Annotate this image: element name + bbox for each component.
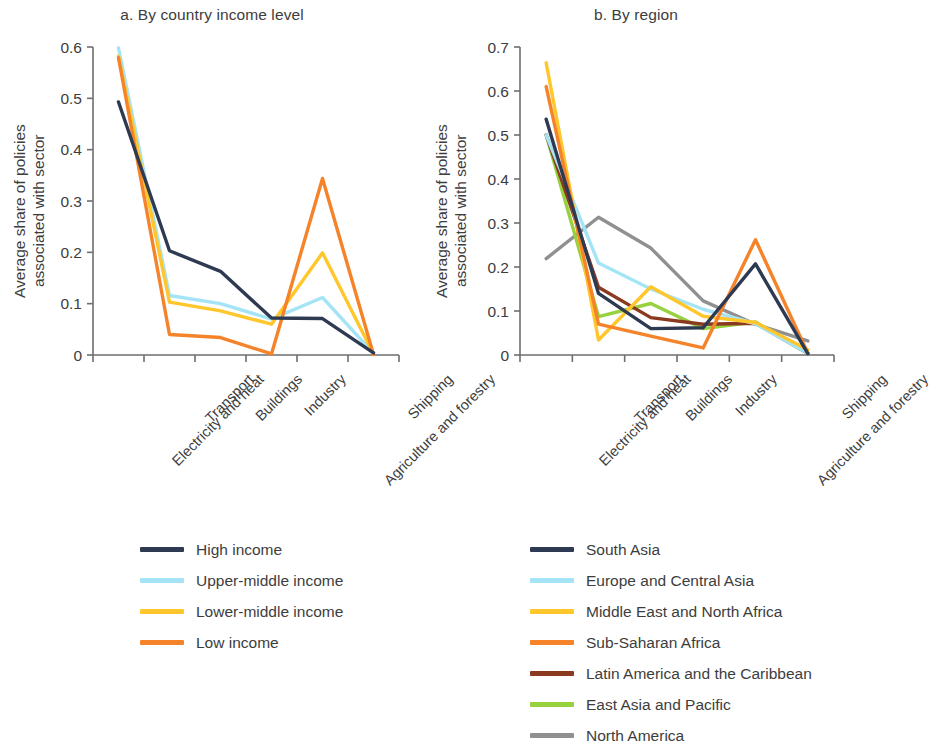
legend-label: Upper-middle income xyxy=(196,572,343,590)
legend-label: Lower-middle income xyxy=(196,603,343,621)
legend-item[interactable]: Low income xyxy=(140,627,343,658)
legend-color-swatch xyxy=(530,609,574,614)
y-tick-label: 0.5 xyxy=(60,90,82,107)
series-line xyxy=(546,119,808,354)
y-tick-label: 0.6 xyxy=(60,39,82,56)
legend-color-swatch xyxy=(530,733,574,738)
legend-label: Latin America and the Caribbean xyxy=(586,665,812,683)
y-tick-label: 0.7 xyxy=(487,39,509,56)
legend-label: East Asia and Pacific xyxy=(586,696,731,714)
y-tick-label: 0.4 xyxy=(60,141,82,158)
legend-color-swatch xyxy=(140,578,184,583)
y-tick-label: 0.4 xyxy=(487,171,509,188)
chart-panel-a: a. By country income level Average share… xyxy=(0,0,424,747)
y-tick-label: 0 xyxy=(73,347,82,364)
legend-color-swatch xyxy=(530,640,574,645)
panel-b-svg: 00.10.20.30.40.50.60.7 xyxy=(424,0,848,380)
panel-a-svg: 00.10.20.30.40.50.6 xyxy=(0,0,424,380)
legend-label: High income xyxy=(196,541,282,559)
series-line xyxy=(546,87,808,354)
legend-color-swatch xyxy=(140,640,184,645)
legend-color-swatch xyxy=(140,609,184,614)
legend-item[interactable]: Lower-middle income xyxy=(140,596,343,627)
legend-item[interactable]: Latin America and the Caribbean xyxy=(530,658,812,689)
legend-label: North America xyxy=(586,727,684,745)
y-tick-label: 0.2 xyxy=(60,244,82,261)
series-line xyxy=(119,48,374,353)
legend-color-swatch xyxy=(530,578,574,583)
legend-item[interactable]: Europe and Central Asia xyxy=(530,565,812,596)
legend-color-swatch xyxy=(530,702,574,707)
panel-a-legend: High incomeUpper-middle incomeLower-midd… xyxy=(140,534,343,658)
legend-color-swatch xyxy=(140,547,184,552)
y-tick-label: 0.3 xyxy=(60,193,82,210)
legend-item[interactable]: East Asia and Pacific xyxy=(530,689,812,720)
legend-label: South Asia xyxy=(586,541,660,559)
y-tick-label: 0 xyxy=(500,347,509,364)
y-tick-label: 0.6 xyxy=(487,83,509,100)
legend-item[interactable]: South Asia xyxy=(530,534,812,565)
legend-item[interactable]: North America xyxy=(530,720,812,747)
legend-color-swatch xyxy=(530,671,574,676)
legend-label: Europe and Central Asia xyxy=(586,572,754,590)
legend-label: Middle East and North Africa xyxy=(586,603,782,621)
panel-b-legend: South AsiaEurope and Central AsiaMiddle … xyxy=(530,534,812,747)
legend-item[interactable]: Upper-middle income xyxy=(140,565,343,596)
y-tick-label: 0.2 xyxy=(487,259,509,276)
legend-label: Low income xyxy=(196,634,279,652)
y-tick-label: 0.5 xyxy=(487,127,509,144)
legend-color-swatch xyxy=(530,547,574,552)
y-tick-label: 0.1 xyxy=(487,303,509,320)
panel-b-plot-area: 00.10.20.30.40.50.60.7 xyxy=(424,0,848,380)
y-tick-label: 0.1 xyxy=(60,295,82,312)
legend-item[interactable]: Middle East and North Africa xyxy=(530,596,812,627)
series-line xyxy=(546,63,808,350)
y-tick-label: 0.3 xyxy=(487,215,509,232)
panel-a-plot-area: 00.10.20.30.40.50.6 xyxy=(0,0,424,380)
legend-label: Sub-Saharan Africa xyxy=(586,634,720,652)
legend-item[interactable]: Sub-Saharan Africa xyxy=(530,627,812,658)
legend-item[interactable]: High income xyxy=(140,534,343,565)
